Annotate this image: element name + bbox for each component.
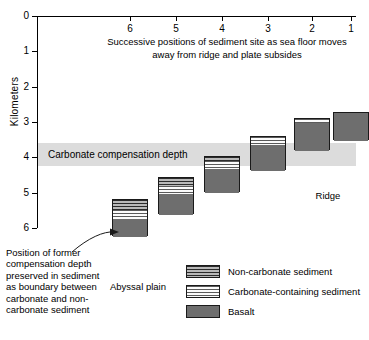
- y-axis-title: Kilometers: [9, 62, 20, 142]
- x-tick-label-2: 2: [302, 24, 322, 34]
- y-tick-1: [32, 51, 37, 52]
- y-tick-2: [32, 87, 37, 88]
- x-tick-6: [130, 16, 131, 21]
- y-tick-0: [32, 16, 37, 17]
- legend-label: Carbonate-containing sediment: [228, 286, 360, 298]
- column-1-segment-basalt: [334, 113, 368, 141]
- x-tick-label-3: 3: [258, 24, 278, 34]
- column-6-segment-carbonate-containing-sediment: [113, 210, 147, 219]
- column-2-segment-basalt: [295, 123, 329, 150]
- legend-label: Non-carbonate sediment: [228, 266, 332, 278]
- x-tick-1: [351, 16, 352, 21]
- x-tick-4: [222, 16, 223, 21]
- column-5-segment-carbonate-containing-sediment: [159, 186, 193, 193]
- column-6-segment-non-carbonate-sediment: [113, 200, 147, 211]
- x-axis-line: [37, 16, 356, 17]
- sediment-column-4: [204, 156, 240, 192]
- x-tick-label-5: 5: [166, 24, 186, 34]
- sediment-column-5: [158, 177, 194, 213]
- x-tick-3: [268, 16, 269, 21]
- abyssal-plain-label: Abyssal plain: [106, 281, 170, 293]
- x-tick-5: [176, 16, 177, 21]
- sediment-column-2: [294, 118, 330, 150]
- y-tick-label-4: 4: [15, 152, 29, 162]
- y-tick-3: [32, 122, 37, 123]
- y-tick-label-6: 6: [15, 223, 29, 233]
- column-3-segment-basalt: [251, 145, 285, 172]
- legend-swatch-dark-horizontal-lines: [186, 265, 220, 278]
- x-tick-label-6: 6: [120, 24, 140, 34]
- top-caption: Successive positions of sediment site as…: [96, 36, 358, 61]
- legend-swatch-solid-gray: [186, 305, 220, 318]
- y-tick-4: [32, 157, 37, 158]
- y-tick-label-1: 1: [15, 46, 29, 56]
- x-tick-2: [312, 16, 313, 21]
- y-tick-label-0: 0: [15, 11, 29, 21]
- y-tick-5: [32, 193, 37, 194]
- sediment-column-6: [112, 199, 148, 236]
- annotation-note: Position of former compensation depth pr…: [6, 247, 110, 315]
- column-3-segment-carbonate-containing-sediment: [251, 137, 285, 145]
- column-4-segment-carbonate-containing-sediment: [205, 161, 239, 169]
- column-6-segment-basalt: [113, 219, 147, 237]
- ridge-label: Ridge: [306, 190, 350, 202]
- sediment-column-3: [250, 136, 286, 170]
- x-tick-label-4: 4: [212, 24, 232, 34]
- column-4-segment-basalt: [205, 169, 239, 192]
- y-tick-label-5: 5: [15, 188, 29, 198]
- y-tick-6: [32, 228, 37, 229]
- y-axis-line: [37, 16, 38, 228]
- ccd-band-label: Carbonate compensation depth: [48, 149, 188, 161]
- legend-label: Basalt: [228, 306, 254, 318]
- column-5-segment-non-carbonate-sediment: [159, 178, 193, 186]
- sediment-column-1: [333, 112, 369, 140]
- column-5-segment-basalt: [159, 194, 193, 215]
- x-tick-label-1: 1: [341, 24, 361, 34]
- legend-swatch-light-horizontal-lines: [186, 285, 220, 298]
